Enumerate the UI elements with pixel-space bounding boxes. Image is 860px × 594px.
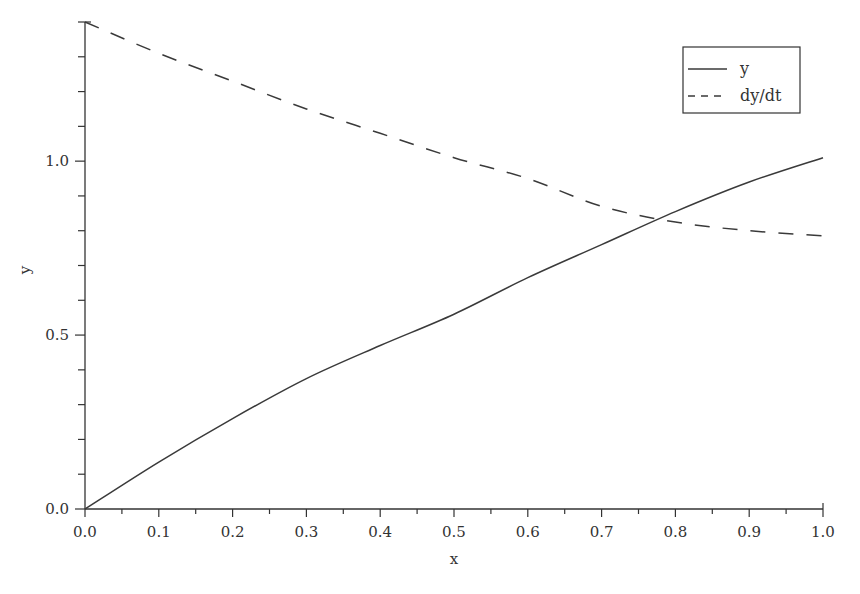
legend-label: dy/dt bbox=[740, 86, 782, 105]
x-tick-label: 0.8 bbox=[663, 523, 687, 541]
x-axis-label: x bbox=[450, 550, 459, 568]
y-tick-label: 0.5 bbox=[45, 326, 69, 344]
x-tick-label: 0.4 bbox=[368, 523, 392, 541]
x-tick-label: 0.7 bbox=[590, 523, 614, 541]
x-tick-label: 1.0 bbox=[811, 523, 835, 541]
legend-label: y bbox=[739, 59, 749, 78]
x-tick-label: 0.3 bbox=[294, 523, 318, 541]
x-tick-label: 0.6 bbox=[516, 523, 540, 541]
y-tick-label: 1.0 bbox=[45, 152, 69, 170]
x-tick-label: 0.9 bbox=[737, 523, 761, 541]
y-axis-label: y bbox=[16, 265, 34, 275]
y-tick-label: 0.0 bbox=[45, 500, 69, 518]
x-tick-label: 0.1 bbox=[147, 523, 171, 541]
series-line-y bbox=[85, 158, 823, 509]
legend: ydy/dt bbox=[683, 47, 800, 113]
x-tick-label: 0.2 bbox=[221, 523, 245, 541]
x-tick-label: 0.0 bbox=[73, 523, 97, 541]
line-chart: 0.00.10.20.30.40.50.60.70.80.91.00.00.51… bbox=[0, 0, 860, 594]
x-tick-label: 0.5 bbox=[442, 523, 466, 541]
